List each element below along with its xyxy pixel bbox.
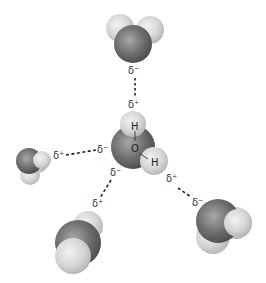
atom-label-h: H — [131, 121, 139, 132]
hydrogen-bond-line — [178, 188, 191, 197]
water-molecule-bottom-right — [196, 199, 252, 254]
charge-label: δ⁺ — [166, 173, 177, 184]
water-molecule-bottom-left — [55, 211, 103, 274]
water-hydrogen-bond-diagram: δ⁻ δ⁺ H O H δ⁺ δ⁻ δ⁻ δ⁺ δ⁺ δ⁻ — [0, 0, 266, 283]
water-molecule-left — [16, 148, 51, 185]
charge-label: δ⁻ — [110, 167, 121, 178]
charge-label: δ⁺ — [53, 150, 64, 161]
water-molecule-central: H O H — [111, 111, 168, 175]
charge-label: δ⁺ — [92, 198, 103, 209]
hydrogen-atom — [33, 151, 51, 169]
atom-label-o: O — [131, 143, 139, 154]
atom-label-h: H — [151, 157, 159, 168]
hydrogen-bond-line — [66, 150, 96, 155]
charge-label: δ⁻ — [128, 65, 139, 76]
oxygen-atom — [114, 25, 152, 63]
charge-label: δ⁺ — [128, 99, 139, 110]
hydrogen-atom — [55, 238, 91, 274]
hydrogen-atom — [224, 209, 252, 237]
charge-label: δ⁻ — [97, 144, 108, 155]
water-molecule-top — [106, 14, 164, 63]
hydrogen-bond-line — [100, 180, 111, 198]
